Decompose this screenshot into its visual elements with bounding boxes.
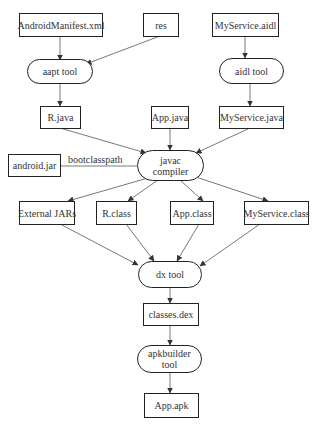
node-label: External JARs: [18, 208, 76, 219]
node-r-class: R.class: [96, 201, 137, 225]
node-label: AndroidManifest.xml: [18, 20, 105, 31]
node-label: classes.dex: [149, 309, 194, 320]
edge-externaljars-dx: [60, 224, 138, 265]
edge-javac-externaljars: [68, 178, 148, 201]
edge-rjava-javac: [60, 128, 146, 153]
node-android-manifest: AndroidManifest.xml: [19, 13, 103, 37]
node-app-java: App.java: [151, 106, 189, 129]
node-classes-dex: classes.dex: [143, 303, 199, 326]
node-r-java: R.java: [40, 106, 81, 129]
node-label-line1: apkbuilder: [148, 348, 191, 359]
node-aidl-tool: aidl tool: [219, 58, 284, 84]
node-label: R.class: [102, 208, 131, 219]
node-res: res: [143, 13, 179, 37]
node-label: aidl tool: [235, 66, 268, 77]
node-label-line1: javac: [160, 155, 181, 166]
node-label: App.apk: [154, 400, 188, 411]
node-label: aapt tool: [43, 66, 78, 77]
node-android-jar: android.jar: [8, 154, 61, 177]
node-label-line2: tool: [162, 359, 178, 370]
node-dx-tool: dx tool: [138, 261, 202, 288]
edge-serviceclass-dx: [200, 224, 260, 266]
edge-javac-appclass: [180, 180, 203, 201]
node-myservice-aidl: MyService.aidl: [212, 13, 279, 37]
edge-rclass-dx: [126, 224, 154, 261]
node-aapt-tool: aapt tool: [27, 59, 93, 84]
node-label: R.java: [48, 112, 74, 123]
node-label: MyService.class: [244, 208, 310, 219]
node-myservice-java: MyService.java: [219, 106, 284, 129]
edge-javac-rclass: [128, 180, 158, 201]
node-myservice-class: MyService.class: [244, 201, 309, 225]
node-label: dx tool: [156, 269, 184, 280]
node-app-apk: App.apk: [144, 393, 199, 418]
node-apkbuilder-tool: apkbuilder tool: [137, 345, 202, 373]
node-label: MyService.aidl: [215, 20, 276, 31]
node-label: App.java: [152, 112, 188, 123]
edge-label-bootclasspath: bootclasspath: [68, 154, 122, 165]
node-external-jars: External JARs: [19, 201, 75, 225]
edge-javac-serviceclass: [196, 177, 268, 201]
edge-res-aapt: [86, 36, 160, 64]
node-label: App.class: [172, 208, 211, 219]
edge-servicejava-javac: [196, 128, 250, 153]
edge-appclass-dx: [177, 224, 199, 261]
node-label: res: [155, 20, 167, 31]
node-label: MyService.java: [220, 112, 283, 123]
node-label-line2: compiler: [153, 166, 189, 177]
node-label: android.jar: [13, 160, 57, 171]
node-app-class: App.class: [170, 201, 214, 225]
node-javac-compiler: javac compiler: [137, 150, 204, 181]
